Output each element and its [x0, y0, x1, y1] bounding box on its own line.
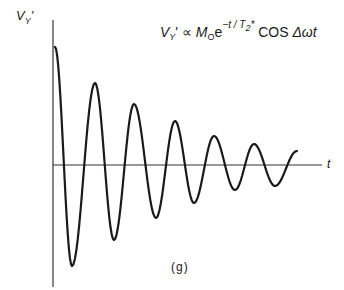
- x-axis-label: t: [327, 157, 330, 171]
- damped-oscillation-curve: [55, 47, 297, 266]
- equation: VY' ∝ MOe−t / T2* COS Δωt: [160, 24, 317, 40]
- y-axis-label: VY': [16, 8, 33, 26]
- damped-cosine-figure: [0, 0, 344, 290]
- panel-label: (g): [171, 260, 189, 274]
